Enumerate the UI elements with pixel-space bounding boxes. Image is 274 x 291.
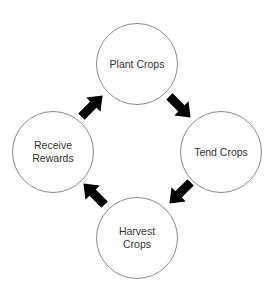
node-harvest-crops: Harvest Crops [96, 197, 178, 279]
node-label: Receive Rewards [32, 139, 73, 165]
node-label: Plant Crops [110, 58, 165, 71]
crop-cycle-diagram: Plant Crops Tend Crops Harvest Crops Rec… [0, 0, 274, 291]
node-label: Harvest Crops [119, 225, 155, 251]
node-tend-crops: Tend Crops [180, 111, 262, 193]
node-receive-rewards: Receive Rewards [12, 111, 94, 193]
arrow-plant-to-tend-icon [162, 89, 197, 124]
arrow-harvest-to-receive-icon [76, 176, 111, 211]
arrow-receive-to-plant-icon [74, 88, 109, 123]
node-label: Tend Crops [194, 146, 248, 159]
node-plant-crops: Plant Crops [96, 23, 178, 105]
